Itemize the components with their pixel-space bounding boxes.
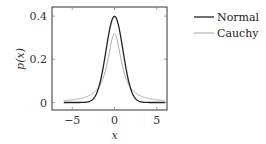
y-axis-label: p(x) <box>14 48 27 70</box>
legend: NormalCauchy <box>194 11 259 40</box>
x-tick-label: −5 <box>64 114 80 127</box>
y-tick-label: 0.4 <box>30 10 48 23</box>
axes: −50500.20.4xp(x) <box>14 7 167 142</box>
plot-area <box>64 16 165 102</box>
series-cauchy-line <box>64 34 165 101</box>
series-normal-line <box>64 16 165 102</box>
legend-label-cauchy: Cauchy <box>217 27 259 40</box>
legend-label-normal: Normal <box>217 11 259 24</box>
axes-frame <box>52 7 167 110</box>
x-tick-label: 5 <box>153 114 160 127</box>
y-tick-label: 0.2 <box>30 53 48 66</box>
chart: −50500.20.4xp(x) NormalCauchy <box>0 0 266 144</box>
x-tick-label: 0 <box>111 114 118 127</box>
y-tick-label: 0 <box>40 97 47 110</box>
x-axis-label: x <box>111 129 118 142</box>
